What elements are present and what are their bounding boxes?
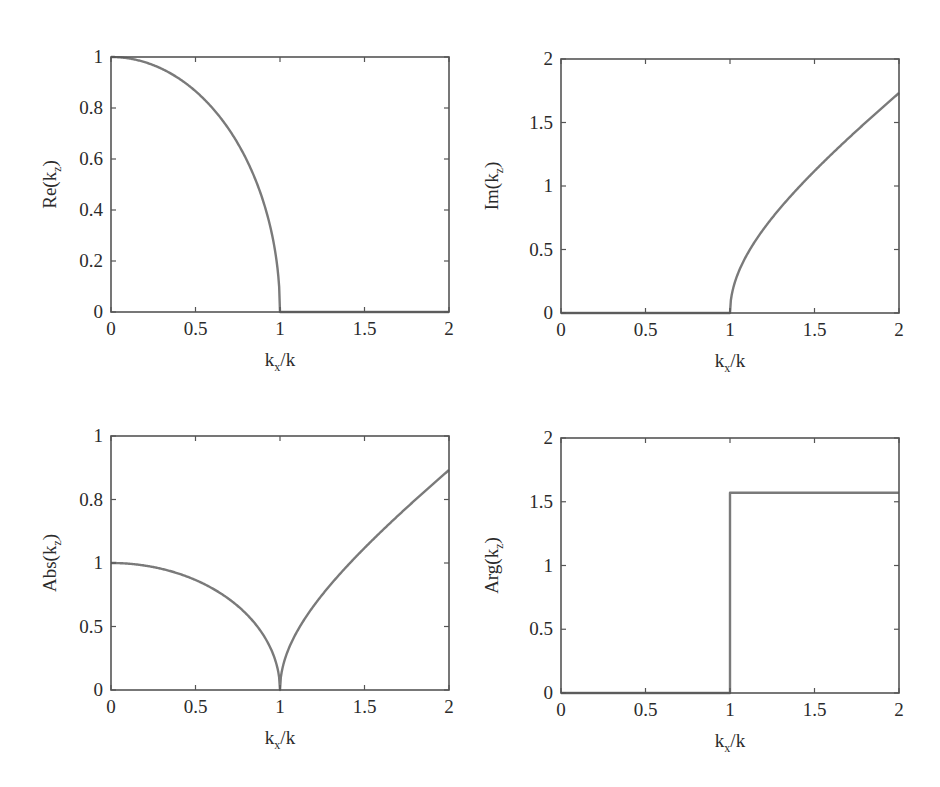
data-curve: [561, 493, 899, 693]
y-axis-label: Arg(kz): [481, 537, 506, 594]
y-tick-label: 1: [94, 46, 104, 67]
y-tick-label: 0.8: [79, 489, 103, 510]
y-tick-label: 0: [544, 302, 554, 323]
data-curve: [111, 57, 449, 312]
x-tick-label: 0: [106, 696, 116, 717]
x-tick-label: 1: [725, 699, 735, 720]
y-tick-label: 0.4: [79, 199, 103, 220]
x-tick-label: 0.5: [184, 318, 208, 339]
x-tick-label: 1.5: [353, 696, 377, 717]
axes-frame: [111, 57, 449, 312]
panel-im: 00.511.5200.511.52kx/kIm(kz): [481, 48, 904, 375]
x-tick-label: 1.5: [803, 699, 827, 720]
axes-frame: [111, 436, 449, 690]
y-tick-label: 0.5: [79, 616, 103, 637]
y-tick-label: 0.6: [79, 148, 103, 169]
x-tick-label: 0: [556, 319, 566, 340]
y-tick-label: 0.2: [79, 250, 103, 271]
y-tick-label: 1.5: [529, 112, 553, 133]
y-tick-label: 0.8: [79, 97, 103, 118]
y-tick-label: 1: [94, 425, 104, 446]
x-tick-label: 0.5: [634, 319, 658, 340]
y-tick-label: 1: [544, 555, 554, 576]
y-tick-label: 0: [544, 682, 554, 703]
figure: 00.511.5200.20.40.60.81kx/kRe(kz) 00.511…: [0, 0, 940, 787]
panel-re: 00.511.5200.20.40.60.81kx/kRe(kz): [39, 46, 454, 374]
x-tick-label: 2: [444, 696, 454, 717]
x-tick-label: 1.5: [803, 319, 827, 340]
y-tick-label: 2: [544, 427, 554, 448]
y-tick-label: 2: [544, 48, 554, 69]
x-tick-label: 2: [894, 319, 904, 340]
y-axis-label: Abs(kz): [39, 534, 64, 592]
y-tick-label: 0: [94, 301, 104, 322]
x-tick-label: 1: [275, 696, 285, 717]
data-curve: [111, 470, 449, 690]
y-tick-label: 1: [544, 175, 554, 196]
x-axis-label: kx/k: [265, 727, 296, 752]
panel-arg: 00.511.5200.511.52kx/kArg(kz): [481, 427, 904, 755]
y-tick-label: 1.5: [529, 491, 553, 512]
x-tick-label: 2: [894, 699, 904, 720]
x-tick-label: 0.5: [634, 699, 658, 720]
x-axis-label: kx/k: [715, 730, 746, 755]
x-axis-label: kx/k: [715, 350, 746, 375]
x-tick-label: 0.5: [184, 696, 208, 717]
x-tick-label: 2: [444, 318, 454, 339]
y-tick-label: 1: [94, 552, 104, 573]
panel-abs: 00.511.5200.510.81kx/kAbs(kz): [39, 425, 454, 752]
y-axis-label: Im(kz): [481, 162, 506, 211]
data-curve: [561, 93, 899, 313]
x-tick-label: 0: [106, 318, 116, 339]
x-tick-label: 1: [275, 318, 285, 339]
x-tick-label: 1.5: [353, 318, 377, 339]
y-tick-label: 0.5: [529, 618, 553, 639]
x-tick-label: 1: [725, 319, 735, 340]
y-tick-label: 0: [94, 679, 104, 700]
y-axis-label: Re(kz): [39, 160, 64, 209]
x-axis-label: kx/k: [265, 349, 296, 374]
axes-frame: [561, 59, 899, 313]
y-tick-label: 0.5: [529, 239, 553, 260]
x-tick-label: 0: [556, 699, 566, 720]
